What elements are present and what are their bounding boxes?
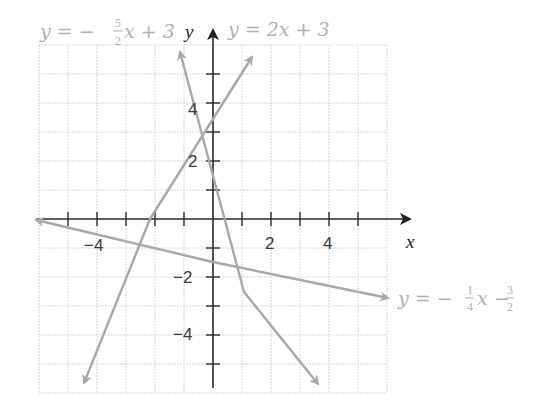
equation-label-1: y = − 5 2 x + 3 xyxy=(39,16,175,48)
svg-text:4: 4 xyxy=(467,300,473,314)
coordinate-plane: −4 2 4 4 2 −2 −4 x y y = − 5 2 x + 3 y =… xyxy=(0,0,555,403)
svg-text:3: 3 xyxy=(507,283,513,297)
y-tick-label-neg2: −2 xyxy=(173,268,192,287)
svg-text:x + 3: x + 3 xyxy=(124,20,175,42)
y-axis-label: y xyxy=(183,21,194,42)
svg-text:2: 2 xyxy=(115,34,121,48)
x-axis-label: x xyxy=(405,231,415,252)
x-tick-label-4: 4 xyxy=(323,234,332,253)
svg-text:2: 2 xyxy=(507,300,513,314)
line-two-x-plus-three xyxy=(150,57,252,219)
line-neg-quarter xyxy=(36,220,213,262)
equation-label-2: y = 2x + 3 xyxy=(227,18,330,40)
x-tick-label-neg4: −4 xyxy=(84,236,103,255)
svg-text:y = −: y = − xyxy=(39,20,95,42)
x-tick-label-2: 2 xyxy=(265,234,274,253)
svg-text:y = −: y = − xyxy=(397,287,453,309)
svg-text:5: 5 xyxy=(115,16,121,30)
y-tick-label-2: 2 xyxy=(188,152,197,171)
svg-text:1: 1 xyxy=(467,283,473,297)
svg-text:x −: x − xyxy=(477,287,510,309)
equation-label-3: y = − 1 4 x − 3 2 xyxy=(397,283,514,314)
plot-lines xyxy=(36,52,388,384)
y-tick-label-4: 4 xyxy=(188,100,197,119)
y-tick-label-neg4: −4 xyxy=(173,325,192,344)
